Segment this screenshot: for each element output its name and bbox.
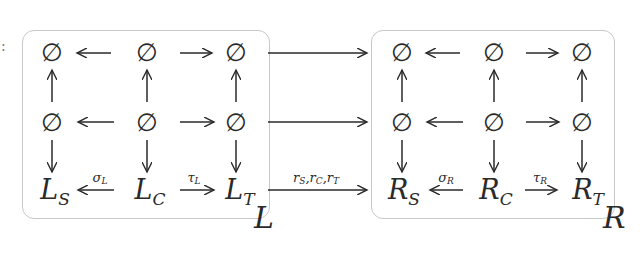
right-box-name: R (603, 203, 626, 233)
right-empty-r0-c2: ∅ (571, 40, 593, 65)
label-sigma-l: σL (93, 170, 108, 186)
left-empty-r1-c2: ∅ (225, 110, 247, 135)
right-empty-r0-c1: ∅ (483, 40, 505, 65)
node-r-t: RT (572, 176, 604, 208)
right-empty-r1-c2: ∅ (571, 110, 593, 135)
arrows-layer (0, 0, 640, 255)
right-empty-r0-c0: ∅ (391, 40, 413, 65)
label-r-morphisms: rS,rC,rT (293, 170, 339, 186)
right-empty-r1-c1: ∅ (483, 110, 505, 135)
left-empty-r1-c0: ∅ (41, 110, 63, 135)
node-l-s: LS (40, 176, 70, 208)
left-empty-r0-c2: ∅ (225, 40, 247, 65)
right-empty-r1-c0: ∅ (391, 110, 413, 135)
span-morphism-diagram: : (0, 0, 640, 255)
left-empty-r0-c1: ∅ (136, 40, 158, 65)
node-l-c: LC (135, 176, 166, 208)
left-empty-r1-c1: ∅ (136, 110, 158, 135)
node-r-s: RS (388, 176, 420, 208)
node-r-c: RC (479, 176, 512, 208)
label-sigma-r: σR (438, 170, 454, 186)
left-empty-r0-c0: ∅ (41, 40, 63, 65)
label-tau-l: τL (187, 170, 200, 186)
node-l-t: LT (225, 176, 254, 208)
label-tau-r: τR (533, 170, 547, 186)
left-box-name: L (254, 203, 274, 233)
